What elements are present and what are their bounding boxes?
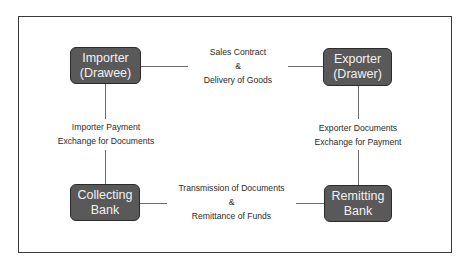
edge-label-line: & — [167, 195, 296, 209]
node-collecting-bank: Collecting Bank — [70, 184, 140, 221]
connector-top-right — [288, 66, 323, 67]
node-label: (Drawee) — [80, 66, 131, 81]
connector-bottom-right — [296, 203, 324, 204]
node-importer: Importer (Drawee) — [70, 47, 141, 84]
node-label: Exporter — [334, 52, 381, 67]
node-exporter: Exporter (Drawer) — [323, 48, 392, 86]
edge-label-line: Delivery of Goods — [188, 73, 288, 87]
connector-bottom-left — [140, 203, 167, 204]
edge-label-line: Remittance of Funds — [167, 209, 296, 223]
connector-left-top — [105, 84, 106, 119]
edge-label-sales-contract: Sales Contract & Delivery of Goods — [188, 45, 288, 87]
edge-label-transmission: Transmission of Documents & Remittance o… — [167, 181, 296, 223]
edge-label-exporter-documents: Exporter Documents Exchange for Payment — [296, 121, 420, 149]
node-label: Bank — [344, 204, 373, 219]
edge-label-line: & — [188, 59, 288, 73]
connector-right-top — [358, 86, 359, 119]
node-label: Remitting — [332, 189, 385, 204]
node-label: Importer — [82, 51, 129, 66]
connector-top-left — [141, 66, 188, 67]
edge-label-line: Transmission of Documents — [167, 181, 296, 195]
edge-label-importer-payment: Importer Payment Exchange for Documents — [45, 120, 167, 148]
node-label: Collecting — [78, 188, 133, 203]
edge-label-line: Exporter Documents — [296, 121, 420, 135]
node-label: Bank — [91, 203, 120, 218]
edge-label-line: Sales Contract — [188, 45, 288, 59]
connector-left-bottom — [105, 150, 106, 184]
node-label: (Drawer) — [333, 67, 382, 82]
edge-label-line: Exchange for Documents — [45, 134, 167, 148]
edge-label-line: Exchange for Payment — [296, 135, 420, 149]
edge-label-line: Importer Payment — [45, 120, 167, 134]
node-remitting-bank: Remitting Bank — [324, 185, 392, 222]
connector-right-bottom — [358, 150, 359, 185]
